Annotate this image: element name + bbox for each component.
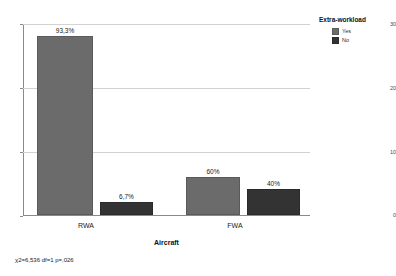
x-axis-title: Aircraft xyxy=(23,238,310,247)
xtick-label-rwa: RWA xyxy=(51,221,121,230)
legend-label-yes: Yes xyxy=(342,28,351,35)
legend-item-yes[interactable]: Yes xyxy=(332,28,394,35)
bar-label-fwa-no: 40% xyxy=(247,180,300,188)
bar-chart: 30 20 10 0 93,3% 6,7% 60% 40% RWA FWA Ai… xyxy=(0,0,396,276)
legend-swatch-no-icon xyxy=(332,37,339,44)
legend-item-no[interactable]: No xyxy=(332,37,394,44)
bar-fwa-no[interactable] xyxy=(247,189,300,215)
ytick-label-20: 20 xyxy=(378,85,396,91)
ytick-label-10: 10 xyxy=(378,149,396,155)
bar-label-rwa-yes: 93,3% xyxy=(37,27,93,35)
legend-title: Extra-workload xyxy=(318,16,394,24)
legend-swatch-yes-icon xyxy=(332,28,339,35)
bar-label-rwa-no: 6,7% xyxy=(100,193,153,201)
chi-square-annotation: χ2=6,536 df=1 p=,026 xyxy=(15,256,74,264)
bar-rwa-yes[interactable] xyxy=(37,36,93,215)
bar-fwa-yes[interactable] xyxy=(186,177,240,215)
legend-label-no: No xyxy=(342,37,349,44)
xtick-label-fwa: FWA xyxy=(200,221,270,230)
legend: Extra-workload Yes No xyxy=(318,16,394,45)
bar-label-fwa-yes: 60% xyxy=(186,168,240,176)
ytick-mark-0 xyxy=(20,216,23,217)
ytick-label-0: 0 xyxy=(378,212,396,218)
bar-rwa-no[interactable] xyxy=(100,202,153,215)
legend-items: Yes No xyxy=(318,28,394,44)
